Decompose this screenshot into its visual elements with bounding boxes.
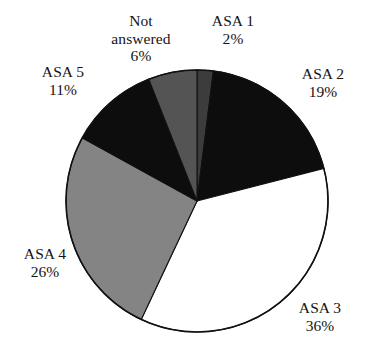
- slice-label-asa-3-pct: 36%: [283, 317, 357, 335]
- slice-label-asa-1: ASA 1 2%: [196, 12, 270, 47]
- slice-label-asa-2: ASA 2 19%: [286, 65, 360, 100]
- slice-label-asa-3-name: ASA 3: [283, 299, 357, 317]
- slice-label-not-answered: Not answered 6%: [104, 12, 178, 65]
- slice-label-asa-5: ASA 5 11%: [26, 63, 100, 98]
- slice-label-asa-1-name: ASA 1: [196, 12, 270, 30]
- slice-label-not-answered-name-line2: answered: [104, 30, 178, 48]
- slice-label-asa-3: ASA 3 36%: [283, 299, 357, 334]
- slice-label-asa-5-name: ASA 5: [26, 63, 100, 81]
- slice-label-asa-5-pct: 11%: [26, 81, 100, 99]
- slice-label-asa-2-pct: 19%: [286, 83, 360, 101]
- slice-label-not-answered-name-line1: Not: [104, 12, 178, 30]
- slice-label-asa-1-pct: 2%: [196, 30, 270, 48]
- pie-slices-group: [66, 70, 328, 332]
- slice-label-asa-4-pct: 26%: [8, 263, 82, 281]
- slice-label-asa-4: ASA 4 26%: [8, 245, 82, 280]
- slice-label-asa-4-name: ASA 4: [8, 245, 82, 263]
- slice-label-asa-2-name: ASA 2: [286, 65, 360, 83]
- pie-chart-figure: Not answered 6% ASA 1 2% ASA 2 19% ASA 3…: [0, 0, 370, 362]
- slice-label-not-answered-pct: 6%: [104, 47, 178, 65]
